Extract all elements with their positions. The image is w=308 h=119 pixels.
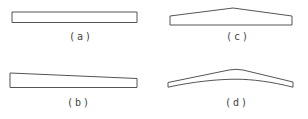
figure-canvas: (a) (b) (c) (d) (0, 0, 308, 119)
panel-label-a: (a) (69, 31, 93, 43)
shape-b-tapered-bar (10, 73, 137, 88)
shape-a-uniform-bar (12, 12, 137, 23)
shape-d-curved-bar (168, 69, 293, 87)
panel-label-c: (c) (226, 31, 250, 43)
panel-label-d: (d) (225, 97, 249, 109)
panel-label-b: (b) (67, 97, 91, 109)
shape-c-double-tapered-bar (170, 8, 292, 25)
beam-shapes-figure (0, 0, 308, 119)
